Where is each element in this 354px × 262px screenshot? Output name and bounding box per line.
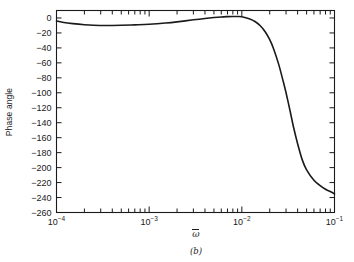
- y-tick-label: −60: [36, 58, 51, 68]
- figure-container: Phase angle 0−20−40−60−80−100−120−140−16…: [0, 0, 354, 262]
- y-axis-ticks: [57, 18, 335, 213]
- y-tick-label: −220: [31, 178, 51, 188]
- y-tick-label: −200: [31, 163, 51, 173]
- phase-curve: [57, 16, 335, 193]
- x-axis-ticks: [57, 11, 335, 213]
- figure-caption: (b): [0, 246, 354, 256]
- x-tick-label: 10−3: [140, 215, 158, 227]
- y-tick-label: −100: [31, 88, 51, 98]
- y-tick-label: −20: [36, 28, 51, 38]
- x-tick-label: 10−4: [48, 215, 66, 227]
- figure-caption-text: (b): [152, 246, 202, 256]
- x-axis-title: ω: [0, 229, 354, 239]
- y-tick-label: −160: [31, 133, 51, 143]
- y-axis-tick-labels: 0−20−40−60−80−100−120−140−160−180−200−22…: [31, 13, 51, 218]
- y-tick-label: −180: [31, 148, 51, 158]
- y-axis-title: Phase angle: [4, 72, 14, 152]
- omega-glyph: ω: [192, 229, 199, 239]
- y-tick-label: −120: [31, 103, 51, 113]
- x-tick-label: 10−2: [233, 215, 251, 227]
- y-tick-label: −240: [31, 193, 51, 203]
- y-tick-label: −140: [31, 118, 51, 128]
- y-tick-label: 0: [46, 13, 51, 23]
- phase-angle-plot: 0−20−40−60−80−100−120−140−160−180−200−22…: [0, 0, 354, 262]
- plot-frame: [57, 11, 335, 213]
- x-tick-label: 10−1: [326, 215, 344, 227]
- omega-bar-symbol: ω: [154, 229, 199, 239]
- x-axis-tick-labels: 10−410−310−210−1: [48, 215, 344, 227]
- overbar-glyph: [192, 229, 199, 230]
- y-tick-label: −80: [36, 73, 51, 83]
- y-tick-label: −40: [36, 43, 51, 53]
- phase-curve-path: [57, 16, 335, 193]
